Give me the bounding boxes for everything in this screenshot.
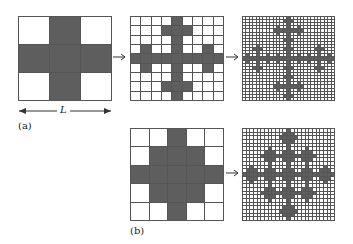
- empty-cell: [309, 140, 312, 143]
- empty-cell: [294, 33, 296, 35]
- empty-cell: [313, 147, 316, 150]
- empty-cell: [272, 140, 275, 143]
- empty-cell: [280, 199, 283, 202]
- empty-cell: [308, 23, 310, 25]
- empty-cell: [254, 129, 257, 132]
- empty-cell: [253, 36, 255, 38]
- filled-cell: [168, 184, 186, 201]
- empty-cell: [331, 140, 334, 143]
- empty-cell: [311, 33, 313, 35]
- filled-cell: [276, 173, 279, 176]
- empty-cell: [291, 129, 294, 132]
- empty-cell: [294, 23, 296, 25]
- filled-cell: [277, 85, 279, 87]
- filled-cell: [291, 39, 293, 41]
- filled-cell: [313, 192, 316, 195]
- empty-cell: [298, 51, 300, 53]
- filled-cell: [302, 188, 305, 191]
- empty-cell: [284, 51, 286, 53]
- empty-cell: [304, 92, 306, 94]
- empty-cell: [321, 33, 323, 35]
- empty-cell: [254, 199, 257, 202]
- filled-cell: [311, 57, 313, 59]
- empty-cell: [291, 51, 293, 53]
- filled-cell: [284, 85, 286, 87]
- arrow-right-icon: [226, 168, 240, 178]
- empty-cell: [332, 79, 334, 81]
- empty-cell: [328, 64, 330, 66]
- empty-cell: [270, 36, 272, 38]
- empty-cell: [280, 158, 283, 161]
- empty-cell: [253, 29, 255, 31]
- empty-cell: [324, 203, 327, 206]
- empty-cell: [325, 85, 327, 87]
- empty-cell: [131, 64, 140, 72]
- empty-cell: [317, 147, 320, 150]
- empty-cell: [276, 199, 279, 202]
- empty-cell: [309, 181, 312, 184]
- empty-cell: [258, 162, 261, 165]
- filled-cell: [287, 98, 289, 100]
- empty-cell: [187, 203, 205, 220]
- empty-cell: [308, 70, 310, 72]
- empty-cell: [141, 92, 150, 100]
- empty-cell: [317, 158, 320, 161]
- empty-cell: [294, 54, 296, 56]
- filled-cell: [141, 54, 150, 62]
- empty-cell: [258, 206, 261, 209]
- empty-cell: [298, 39, 300, 41]
- filled-cell: [250, 169, 253, 172]
- empty-cell: [277, 67, 279, 69]
- empty-cell: [318, 95, 320, 97]
- empty-cell: [267, 42, 269, 44]
- empty-cell: [294, 82, 296, 84]
- empty-cell: [318, 20, 320, 22]
- empty-cell: [304, 23, 306, 25]
- empty-cell: [274, 33, 276, 35]
- filled-cell: [261, 192, 264, 195]
- empty-cell: [269, 214, 272, 217]
- empty-cell: [306, 214, 309, 217]
- filled-cell: [265, 155, 268, 158]
- filled-cell: [315, 57, 317, 59]
- filled-cell: [308, 54, 310, 56]
- empty-cell: [246, 20, 248, 22]
- empty-cell: [214, 26, 223, 34]
- filled-cell: [302, 173, 305, 176]
- empty-cell: [294, 79, 296, 81]
- empty-cell: [284, 45, 286, 47]
- empty-cell: [253, 89, 255, 91]
- empty-cell: [298, 184, 301, 187]
- empty-cell: [260, 20, 262, 22]
- empty-cell: [311, 36, 313, 38]
- empty-cell: [332, 42, 334, 44]
- filled-cell: [321, 48, 323, 50]
- empty-cell: [320, 136, 323, 139]
- empty-cell: [274, 61, 276, 63]
- filled-cell: [287, 151, 290, 154]
- empty-cell: [258, 210, 261, 213]
- empty-cell: [315, 79, 317, 81]
- empty-cell: [250, 61, 252, 63]
- empty-cell: [311, 42, 313, 44]
- empty-cell: [311, 98, 313, 100]
- empty-cell: [315, 45, 317, 47]
- empty-cell: [331, 147, 334, 150]
- empty-cell: [328, 210, 331, 213]
- empty-cell: [253, 51, 255, 53]
- filled-cell: [328, 177, 331, 180]
- empty-cell: [250, 199, 253, 202]
- empty-cell: [152, 64, 161, 72]
- filled-cell: [269, 177, 272, 180]
- empty-cell: [280, 181, 283, 184]
- empty-cell: [302, 206, 305, 209]
- filled-cell: [291, 155, 294, 158]
- empty-cell: [274, 67, 276, 69]
- empty-cell: [324, 155, 327, 158]
- empty-cell: [250, 20, 252, 22]
- empty-cell: [291, 217, 294, 220]
- empty-cell: [318, 73, 320, 75]
- filled-cell: [246, 61, 248, 63]
- empty-cell: [328, 95, 330, 97]
- filled-cell: [287, 54, 289, 56]
